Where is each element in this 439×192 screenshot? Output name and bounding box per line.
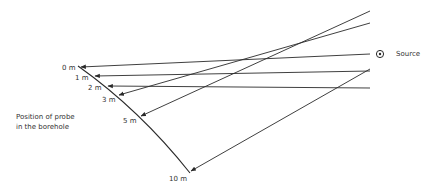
depth-label-3m: 3 m xyxy=(102,96,116,104)
caption-line-1: Position of probe xyxy=(16,112,75,122)
caption: Position of probe in the borehole xyxy=(16,112,75,132)
ray-0m xyxy=(81,54,370,67)
ray-1m xyxy=(95,71,370,76)
depth-label-5m: 5 m xyxy=(123,117,137,125)
depth-label-1m: 1 m xyxy=(75,74,89,82)
depth-label-0m: 0 m xyxy=(62,64,76,72)
source-label: Source xyxy=(396,50,420,58)
caption-line-2: in the borehole xyxy=(16,122,75,132)
ray-paths xyxy=(0,0,439,192)
source-icon xyxy=(376,50,383,57)
depth-label-10m: 10 m xyxy=(169,175,187,183)
depth-label-2m: 2 m xyxy=(88,84,102,92)
ray-5m xyxy=(141,11,370,116)
ray-10m xyxy=(191,69,370,171)
borehole-diagram: Source 0 m 1 m 2 m 3 m 5 m 10 m Position… xyxy=(0,0,439,192)
ray-3m xyxy=(119,23,370,95)
